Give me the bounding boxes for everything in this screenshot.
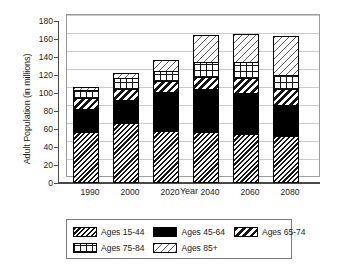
bar-segment-2040-ages-45-64 <box>193 89 219 132</box>
y-tick-label-160: 160 <box>2 34 58 44</box>
bar-top-face <box>114 73 139 74</box>
bar-segment-2060-ages-15-44 <box>233 134 259 183</box>
chart-legend: Ages 15-44 Ages 45-64 Ages 65-74 Ages 75… <box>66 219 292 259</box>
y-tick-label-100: 100 <box>2 88 58 98</box>
legend-item-ages-15-44: Ages 15-44 <box>73 227 144 237</box>
legend-swatch-icon-ages-85-plus <box>153 243 177 253</box>
y-tick-mark-0 <box>54 183 58 184</box>
bar-2000 <box>113 73 139 183</box>
bar-segment-2060-ages-65-74 <box>233 78 259 93</box>
y-tick-label-120: 120 <box>2 70 58 80</box>
y-tick-label-20: 20 <box>2 160 58 170</box>
legend-label-ages-85-plus: Ages 85+ <box>181 243 217 253</box>
y-tick-mark-80 <box>54 111 58 112</box>
bar-2040 <box>193 35 219 183</box>
legend-label-ages-15-44: Ages 15-44 <box>101 227 144 237</box>
y-tick-mark-20 <box>54 165 58 166</box>
x-axis-title: Year <box>58 186 320 196</box>
bar-segment-2080-ages-45-64 <box>273 105 299 137</box>
legend-swatch-icon-ages-65-74 <box>234 227 258 237</box>
bar-2080 <box>273 36 299 183</box>
y-tick-label-180: 180 <box>2 16 58 26</box>
bar-top-face <box>274 36 299 37</box>
y-tick-mark-140 <box>54 57 58 58</box>
bar-segment-2080-ages-15-44 <box>273 136 299 183</box>
bar-top-face <box>154 60 179 61</box>
legend-label-ages-65-74: Ages 65-74 <box>262 227 305 237</box>
bar-segment-1990-ages-15-44 <box>73 132 99 183</box>
legend-item-ages-75-84: Ages 75-84 <box>73 243 144 253</box>
bar-segment-2080-ages-75-84 <box>273 75 299 89</box>
y-tick-label-60: 60 <box>2 124 58 134</box>
legend-label-ages-75-84: Ages 75-84 <box>101 243 144 253</box>
legend-row-1: Ages 15-44 Ages 45-64 Ages 65-74 <box>73 224 285 240</box>
bar-top-face <box>74 87 99 88</box>
y-tick-label-80: 80 <box>2 106 58 116</box>
bar-segment-2000-ages-65-74 <box>113 89 139 101</box>
bar-segment-2020-ages-45-64 <box>153 92 179 131</box>
y-tick-label-40: 40 <box>2 142 58 152</box>
bar-segment-2000-ages-75-84 <box>113 78 139 89</box>
bar-1990 <box>73 87 99 183</box>
bar-segment-2060-ages-85 <box>233 34 259 63</box>
bar-segment-2000-ages-45-64 <box>113 100 139 123</box>
legend-swatch-icon-ages-75-84 <box>73 243 97 253</box>
y-tick-mark-180 <box>54 21 58 22</box>
legend-item-ages-65-74: Ages 65-74 <box>234 227 305 237</box>
legend-row-2: Ages 75-84 Ages 85+ <box>73 240 285 256</box>
y-tick-mark-100 <box>54 93 58 94</box>
bar-segment-2060-ages-75-84 <box>233 62 259 77</box>
bar-top-face <box>194 35 219 36</box>
stacked-bar-chart: Adult Population (in millions) 020406080… <box>0 0 349 267</box>
bar-segment-2020-ages-65-74 <box>153 81 179 92</box>
y-tick-mark-160 <box>54 39 58 40</box>
bar-2020 <box>153 60 179 183</box>
bar-segment-2040-ages-65-74 <box>193 77 219 89</box>
bar-segment-2040-ages-85 <box>193 35 219 63</box>
bar-2060 <box>233 34 259 183</box>
y-tick-mark-120 <box>54 75 58 76</box>
bar-segment-2040-ages-15-44 <box>193 132 219 183</box>
bar-segment-2020-ages-85 <box>153 60 179 71</box>
bar-segment-1990-ages-75-84 <box>73 90 99 98</box>
bar-segment-2060-ages-45-64 <box>233 93 259 134</box>
y-tick-mark-40 <box>54 147 58 148</box>
bar-segment-2080-ages-65-74 <box>273 89 299 105</box>
legend-label-ages-45-64: Ages 45-64 <box>181 227 224 237</box>
bar-segment-2080-ages-85 <box>273 36 299 75</box>
bar-segment-1990-ages-45-64 <box>73 109 99 132</box>
bar-top-face <box>234 34 259 35</box>
y-tick-label-0: 0 <box>2 178 58 188</box>
bar-segment-2040-ages-75-84 <box>193 62 219 76</box>
gridline-180 <box>67 15 319 16</box>
y-tick-label-140: 140 <box>2 52 58 62</box>
bar-segment-2020-ages-15-44 <box>153 131 179 183</box>
legend-swatch-icon-ages-15-44 <box>73 227 97 237</box>
bar-segment-2000-ages-15-44 <box>113 123 139 183</box>
plot-area: 020406080100120140160180 199020002020204… <box>58 21 320 183</box>
y-tick-mark-60 <box>54 129 58 130</box>
bar-segment-2020-ages-75-84 <box>153 71 179 82</box>
legend-item-ages-45-64: Ages 45-64 <box>153 227 224 237</box>
bar-segment-1990-ages-65-74 <box>73 98 99 109</box>
legend-swatch-icon-ages-45-64 <box>153 227 177 237</box>
legend-item-ages-85-plus: Ages 85+ <box>153 243 217 253</box>
